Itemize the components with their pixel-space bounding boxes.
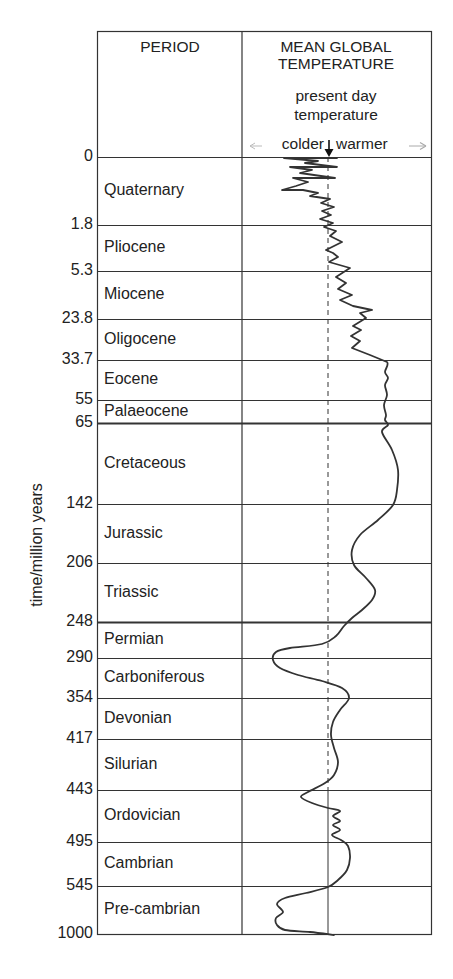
period-label: Cretaceous xyxy=(104,454,186,472)
y-tick-label: 248 xyxy=(66,612,93,630)
y-tick-label: 417 xyxy=(66,729,93,747)
temperature-label: temperature xyxy=(246,106,426,123)
period-label: Triassic xyxy=(104,583,159,601)
y-tick-label: 206 xyxy=(66,553,93,571)
period-label: Cambrian xyxy=(104,854,173,872)
table-border xyxy=(98,32,432,935)
y-tick-label: 1.8 xyxy=(71,215,93,233)
y-tick-label: 1000 xyxy=(57,924,93,942)
period-label: Ordovician xyxy=(104,806,180,824)
arrow-down-icon xyxy=(325,149,334,157)
y-tick-label: 495 xyxy=(66,832,93,850)
period-label: Pliocene xyxy=(104,238,165,256)
y-tick-label: 5.3 xyxy=(71,261,93,279)
y-tick-label: 33.7 xyxy=(62,350,93,368)
table-frame xyxy=(98,31,432,935)
y-tick-label: 443 xyxy=(66,780,93,798)
period-label: Palaeocene xyxy=(104,402,189,420)
period-boundaries xyxy=(97,158,432,887)
y-tick-label: 290 xyxy=(66,648,93,666)
period-label: Eocene xyxy=(104,370,158,388)
temperature-header-line1: MEAN GLOBAL xyxy=(246,38,426,55)
period-label: Oligocene xyxy=(104,330,176,348)
period-label: Devonian xyxy=(104,709,172,727)
temperature-curve xyxy=(273,158,399,935)
y-tick-label: 55 xyxy=(75,390,93,408)
y-tick-label: 142 xyxy=(66,494,93,512)
period-label: Carboniferous xyxy=(104,668,205,686)
colder-label: colder xyxy=(262,135,324,152)
period-label: Pre-cambrian xyxy=(104,900,200,918)
y-tick-label: 65 xyxy=(75,413,93,431)
period-label: Permian xyxy=(104,630,164,648)
period-column-header: PERIOD xyxy=(104,38,236,55)
period-label: Silurian xyxy=(104,755,157,773)
warmer-label: warmer xyxy=(336,135,408,152)
y-axis-label: time/million years xyxy=(28,483,46,607)
period-label: Quaternary xyxy=(104,181,184,199)
y-tick-label: 545 xyxy=(66,876,93,894)
present-day-label: present day xyxy=(246,87,426,104)
period-label: Jurassic xyxy=(104,524,163,542)
y-tick-label: 23.8 xyxy=(62,309,93,327)
temperature-header-line2: TEMPERATURE xyxy=(246,55,426,72)
y-tick-label: 0 xyxy=(84,147,93,165)
y-tick-label: 354 xyxy=(66,688,93,706)
period-label: Miocene xyxy=(104,285,164,303)
